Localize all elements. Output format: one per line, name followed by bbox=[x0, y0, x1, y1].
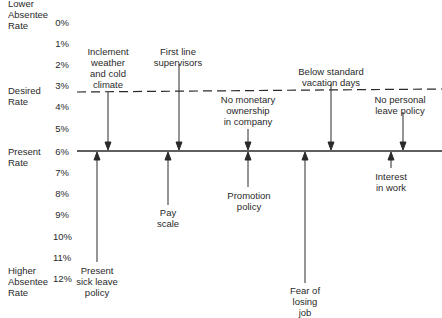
caption-line: job bbox=[290, 307, 320, 318]
caption-line: Below standard bbox=[298, 66, 363, 77]
arrowhead-icon bbox=[388, 152, 394, 160]
caption-line: policy bbox=[227, 201, 270, 212]
driving-force-present-sick-leave: Present sick leave policy bbox=[76, 265, 118, 298]
arrowhead-icon bbox=[245, 152, 251, 160]
caption-line: Promotion bbox=[227, 190, 270, 201]
caption-line: in company bbox=[221, 116, 275, 127]
caption-line: No personal bbox=[374, 94, 425, 105]
caption-line: sick leave bbox=[76, 276, 118, 287]
caption-line: and cold bbox=[87, 68, 128, 79]
restraining-force-inclement-weather: Inclement weather and cold climate bbox=[87, 46, 128, 90]
arrowhead-icon bbox=[105, 142, 111, 150]
arrowhead-icon bbox=[328, 142, 334, 150]
caption-line: No monetary bbox=[221, 94, 275, 105]
caption-line: Interest bbox=[375, 171, 407, 182]
restraining-force-no-monetary-ownership: No monetary ownership in company bbox=[221, 94, 275, 127]
driving-force-pay-scale: Pay scale bbox=[157, 207, 179, 229]
driving-force-promotion-policy: Promotion policy bbox=[227, 190, 270, 212]
caption-line: vacation days bbox=[298, 77, 363, 88]
caption-line: losing bbox=[290, 296, 320, 307]
driving-force-fear-of-losing-job: Fear of losing job bbox=[290, 285, 320, 318]
caption-line: Inclement bbox=[87, 46, 128, 57]
caption-line: leave policy bbox=[374, 105, 425, 116]
caption-line: ownership bbox=[221, 105, 275, 116]
caption-line: Fear of bbox=[290, 285, 320, 296]
caption-line: Pay bbox=[157, 207, 179, 218]
restraining-force-first-line-supervisors: First line supervisors bbox=[154, 46, 203, 68]
caption-line: in work bbox=[375, 182, 407, 193]
restraining-force-below-standard-vacation: Below standard vacation days bbox=[298, 66, 363, 88]
caption-line: weather bbox=[87, 57, 128, 68]
arrowhead-icon bbox=[302, 152, 308, 160]
caption-line: climate bbox=[87, 79, 128, 90]
caption-line: policy bbox=[76, 287, 118, 298]
arrowhead-icon bbox=[94, 152, 100, 160]
caption-line: scale bbox=[157, 218, 179, 229]
caption-line: First line bbox=[154, 46, 203, 57]
caption-line: Present bbox=[76, 265, 118, 276]
arrowhead-icon bbox=[165, 152, 171, 160]
arrowhead-icon bbox=[245, 142, 251, 150]
caption-line: supervisors bbox=[154, 57, 203, 68]
arrowhead-icon bbox=[400, 142, 406, 150]
arrowhead-icon bbox=[176, 142, 182, 150]
driving-force-interest-in-work: Interest in work bbox=[375, 171, 407, 193]
restraining-force-no-personal-leave: No personal leave policy bbox=[374, 94, 425, 116]
desired-rate-line bbox=[77, 89, 442, 92]
